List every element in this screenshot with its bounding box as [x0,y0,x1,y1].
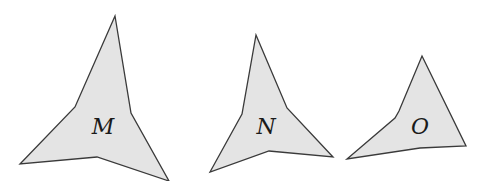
polygon-o [347,56,466,159]
polygon-m [20,16,169,181]
shape-m: M [20,16,169,181]
shape-o: O [347,56,466,159]
polygon-n [210,35,333,172]
label-m: M [91,114,115,139]
label-n: N [255,114,276,139]
label-o: O [411,114,429,139]
figure-canvas: M N O [0,0,480,181]
shape-n: N [210,35,333,172]
shapes-svg: M N O [0,0,480,181]
